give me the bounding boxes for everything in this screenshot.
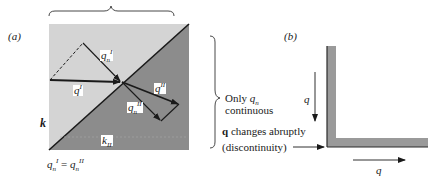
panel-b-corner [327,46,428,147]
incident-label: qI [73,85,83,96]
horizontal-bar [327,138,428,147]
only-qn-continuous-line2: continuous [225,104,273,116]
incident-normal-label: qnI [100,50,113,61]
panel-a-interface [49,24,189,150]
right-brace [210,36,220,148]
diagram-canvas [0,0,438,180]
refracted-label: qII [154,83,166,94]
medium-k2-label: kII [101,135,113,146]
panel-b-label: (b) [284,30,297,42]
horizontal-q-label: q [376,164,382,176]
panel-a-label: (a) [8,30,21,42]
discontinuity-label: (discontinuity) [222,141,287,153]
vertical-q-label: q [304,93,310,105]
top-brace [49,6,174,16]
q-changes-abruptly: q changes abruptly [222,125,306,137]
only-qn-continuous-line1: Only qn [225,92,259,104]
medium-k-label: k [40,117,46,129]
continuity-equation: qnI = qnII [47,158,84,170]
vertical-bar [327,46,336,147]
refracted-normal-label: qnII [127,102,143,113]
